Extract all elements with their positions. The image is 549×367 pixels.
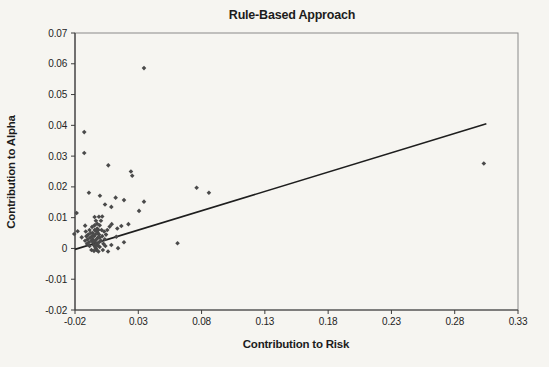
data-point: [103, 202, 108, 207]
data-point: [175, 241, 180, 246]
data-point: [106, 163, 111, 168]
data-point: [92, 215, 97, 220]
data-point: [79, 235, 84, 240]
data-point: [114, 234, 119, 239]
data-point: [122, 198, 127, 203]
data-point: [482, 161, 487, 166]
data-point: [130, 174, 135, 179]
y-tick-label: 0.02: [48, 181, 67, 192]
y-tick-label: -0.01: [45, 274, 67, 285]
x-tick-label: 0.18: [319, 316, 338, 327]
data-point: [72, 232, 77, 237]
data-point: [142, 66, 147, 71]
data-point: [207, 190, 212, 195]
data-point: [75, 229, 80, 234]
x-tick-label: 0.33: [509, 316, 528, 327]
data-point: [126, 222, 131, 227]
y-axis-title: Contribution to Alpha: [5, 114, 17, 228]
data-point: [122, 240, 127, 245]
y-tick-label: -0.02: [45, 305, 67, 316]
data-point: [83, 223, 88, 228]
plot-border: [75, 33, 518, 310]
data-point: [109, 243, 114, 248]
data-point: [106, 249, 111, 254]
data-point: [100, 214, 105, 219]
y-tick-label: 0.07: [48, 28, 67, 39]
x-tick-label: 0.23: [382, 316, 401, 327]
trend-line: [75, 124, 486, 250]
y-tick-label: 0.03: [48, 151, 67, 162]
data-point: [142, 199, 147, 204]
data-point: [101, 248, 106, 253]
y-tick-label: 0.05: [48, 89, 67, 100]
data-point: [109, 205, 114, 210]
chart-title: Rule-Based Approach: [229, 8, 355, 22]
y-tick-label: 0.06: [48, 58, 67, 69]
data-point: [98, 194, 103, 199]
plot-area: -0.020.030.080.130.180.230.280.330.070.0…: [45, 28, 528, 328]
x-tick-label: 0.03: [129, 316, 148, 327]
x-tick-label: 0.28: [445, 316, 464, 327]
data-point: [113, 195, 118, 200]
x-tick-label: -0.02: [64, 316, 86, 327]
data-point: [116, 246, 121, 251]
x-tick-label: 0.13: [256, 316, 275, 327]
data-point: [115, 226, 120, 231]
y-tick-label: 0.04: [48, 120, 67, 131]
data-point: [137, 209, 142, 214]
x-tick-label: 0.08: [192, 316, 211, 327]
data-point: [82, 151, 87, 156]
data-point: [129, 169, 134, 174]
x-axis-title: Contribution to Risk: [243, 338, 350, 350]
data-point: [99, 218, 104, 223]
figure-page: Rule-Based Approach -0.020.030.080.130.1…: [0, 0, 549, 367]
data-point: [87, 190, 92, 195]
data-point: [119, 224, 124, 229]
data-point: [194, 186, 199, 191]
y-tick-label: 0.01: [48, 212, 67, 223]
scatter-chart: Rule-Based Approach -0.020.030.080.130.1…: [0, 0, 549, 367]
y-tick-label: 0: [62, 243, 68, 254]
data-point: [82, 130, 87, 135]
